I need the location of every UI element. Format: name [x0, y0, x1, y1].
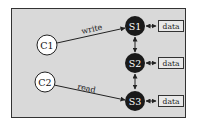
- data-box-2: data: [159, 58, 184, 69]
- server-label: S2: [129, 58, 142, 69]
- server-label: S3: [129, 96, 142, 107]
- client-node-c1: C1: [37, 35, 57, 55]
- server-node-s3: S3: [125, 91, 145, 111]
- data-box-label: data: [163, 97, 180, 106]
- data-box-3: data: [159, 96, 184, 107]
- server-node-s2: S2: [125, 53, 145, 73]
- replication-diagram: write read C1 C2 S1 S2 S3 data data data: [0, 0, 199, 124]
- data-box-label: data: [163, 22, 180, 31]
- data-box-1: data: [159, 21, 184, 32]
- client-label: C2: [38, 77, 51, 88]
- client-node-c2: C2: [35, 72, 55, 92]
- data-box-label: data: [163, 59, 180, 68]
- server-label: S1: [129, 21, 142, 32]
- client-label: C1: [40, 40, 53, 51]
- server-node-s1: S1: [125, 16, 145, 36]
